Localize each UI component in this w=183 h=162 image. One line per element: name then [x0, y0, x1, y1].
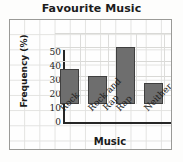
gridline-50	[55, 33, 172, 34]
chart-title: Favourite Music	[0, 3, 183, 15]
chart-figure: Favourite Music Frequency (%) 50 40 30 2…	[0, 0, 183, 162]
graph-paper-frame: Frequency (%) 50 40 30 20 10 0	[9, 19, 172, 150]
x-axis-title: Music	[50, 136, 170, 147]
y-tick-label-0: 0	[45, 118, 61, 127]
gridline-30	[55, 61, 172, 62]
x-axis-line	[63, 122, 172, 124]
gridline-40	[55, 47, 172, 48]
y-axis-title: Frequency (%)	[19, 34, 29, 108]
